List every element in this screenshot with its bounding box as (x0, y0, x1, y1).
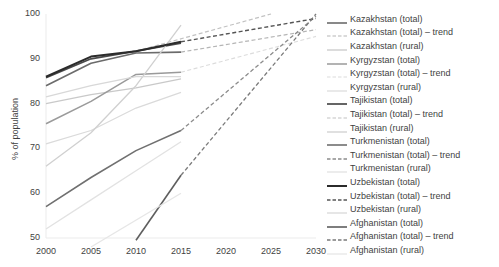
legend-item-label: Tajikistan (rural) (350, 123, 414, 133)
legend-swatch-icon (327, 191, 347, 201)
legend-item-label: Tajikistan (total) – trend (350, 109, 443, 119)
legend-swatch-icon (327, 55, 347, 65)
series-line-tajikistan-total (46, 43, 181, 78)
series-line-uzbekistan-total (46, 42, 181, 77)
legend-item-tajikistan-rural[interactable]: Tajikistan (rural) (327, 121, 499, 135)
legend-item-label: Uzbekistan (rural) (350, 204, 421, 214)
chart-container: % of population 5060708090100 2000200520… (0, 0, 499, 267)
legend-item-afghanistan-total-trend[interactable]: Afghanistan (total) – trend (327, 230, 499, 244)
legend-item-tajikistan-total[interactable]: Tajikistan (total) (327, 94, 499, 108)
series-line-kyrgyzstan-total-trend (181, 36, 316, 72)
legend-item-label: Afghanistan (rural) (350, 245, 424, 255)
legend-item-turkmenistan-total[interactable]: Turkmenistan (total) (327, 134, 499, 148)
legend-item-kyrgyzstan-rural[interactable]: Kyrgyzstan (rural) (327, 80, 499, 94)
legend-item-uzbekistan-rural[interactable]: Uzbekistan (rural) (327, 202, 499, 216)
legend-swatch-icon (327, 136, 347, 146)
legend-swatch-icon (327, 95, 347, 105)
chart-legend: Kazakhstan (total)Kazakhstan (total) – t… (327, 12, 499, 257)
legend-item-label: Afghanistan (total) (350, 218, 423, 228)
legend-item-label: Kyrgyzstan (total) – trend (350, 68, 451, 78)
legend-swatch-icon (327, 204, 347, 214)
legend-swatch-icon (327, 41, 347, 51)
legend-swatch-icon (327, 14, 347, 24)
legend-swatch-icon (327, 68, 347, 78)
legend-item-turkmenistan-total-trend[interactable]: Turkmenistan (total) – trend (327, 148, 499, 162)
series-line-kyrgyzstan-total (46, 72, 181, 124)
legend-item-afghanistan-rural[interactable]: Afghanistan (rural) (327, 243, 499, 257)
legend-item-label: Kazakhstan (total) – trend (350, 27, 453, 37)
legend-item-label: Tajikistan (total) (350, 95, 413, 105)
legend-item-label: Uzbekistan (total) (350, 177, 420, 187)
legend-item-label: Turkmenistan (total) (350, 136, 430, 146)
series-line-turkmenistan-total (46, 130, 181, 206)
legend-item-kazakhstan-rural[interactable]: Kazakhstan (rural) (327, 39, 499, 53)
legend-item-label: Turkmenistan (rural) (350, 163, 431, 173)
legend-swatch-icon (327, 27, 347, 37)
legend-item-label: Uzbekistan (total) – trend (350, 191, 451, 201)
legend-item-kyrgyzstan-total-trend[interactable]: Kyrgyzstan (total) – trend (327, 66, 499, 80)
legend-item-uzbekistan-total-trend[interactable]: Uzbekistan (total) – trend (327, 189, 499, 203)
series-line-uzbekistan-rural (46, 77, 181, 97)
legend-item-label: Kyrgyzstan (rural) (350, 82, 421, 92)
legend-swatch-icon (327, 218, 347, 228)
legend-swatch-icon (327, 150, 347, 160)
legend-swatch-icon (327, 82, 347, 92)
legend-item-label: Kyrgyzstan (total) (350, 55, 420, 65)
legend-item-label: Kazakhstan (total) (350, 14, 423, 24)
series-line-tajikistan-total-trend (136, 14, 271, 51)
legend-item-tajikistan-total-trend[interactable]: Tajikistan (total) – trend (327, 107, 499, 121)
legend-swatch-icon (327, 245, 347, 255)
legend-item-kazakhstan-total[interactable]: Kazakhstan (total) (327, 12, 499, 26)
series-line-turkmenistan-rural (46, 142, 181, 229)
legend-item-label: Kazakhstan (rural) (350, 41, 424, 51)
legend-swatch-icon (327, 177, 347, 187)
legend-swatch-icon (327, 123, 347, 133)
legend-item-uzbekistan-total[interactable]: Uzbekistan (total) (327, 175, 499, 189)
legend-item-kazakhstan-total-trend[interactable]: Kazakhstan (total) – trend (327, 26, 499, 40)
legend-item-kyrgyzstan-total[interactable]: Kyrgyzstan (total) (327, 53, 499, 67)
series-line-afghanistan-total (136, 175, 181, 240)
legend-swatch-icon (327, 109, 347, 119)
legend-swatch-icon (327, 163, 347, 173)
legend-item-label: Afghanistan (total) – trend (350, 231, 454, 241)
legend-swatch-icon (327, 231, 347, 241)
legend-item-turkmenistan-rural[interactable]: Turkmenistan (rural) (327, 162, 499, 176)
legend-item-label: Turkmenistan (total) – trend (350, 150, 460, 160)
legend-item-afghanistan-total[interactable]: Afghanistan (total) (327, 216, 499, 230)
